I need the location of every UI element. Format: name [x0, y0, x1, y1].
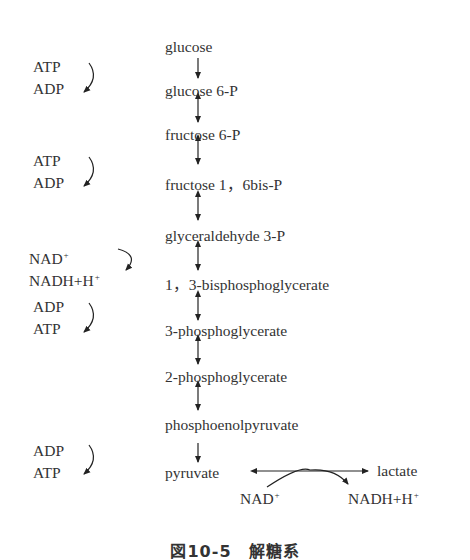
cofactor-in-3: NAD+ [29, 250, 69, 270]
curved-arrow-icon [84, 445, 93, 474]
cofactor-out-5: ATP [33, 464, 61, 482]
curved-arrow-icon [267, 469, 348, 487]
compound-13-bisphosphoglycerate: 1，3-bisphosphoglycerate [165, 276, 329, 294]
cofactor-in-4: ADP [33, 298, 64, 316]
cofactor-in-1: ATP [33, 58, 61, 76]
compound-lactate: lactate [377, 462, 417, 480]
cofactor-label: NAD [240, 490, 274, 507]
cofactor-label: NAD [29, 250, 63, 267]
superscript: + [414, 490, 419, 500]
cofactor-out-4: ATP [33, 320, 61, 338]
compound-pyruvate: pyruvate [165, 464, 219, 482]
curved-arrow-icon [118, 249, 131, 270]
cofactor-out-2: ADP [33, 174, 64, 192]
superscript: + [64, 250, 69, 260]
curved-arrow-icon [84, 157, 93, 186]
cofactor-out-1: ADP [33, 80, 64, 98]
compound-glucose: glucose [165, 38, 212, 56]
superscript: + [275, 490, 280, 500]
cofactor-nad-plus: NAD+ [240, 490, 280, 510]
curved-arrow-icon [84, 303, 93, 332]
cofactor-nadh: NADH+H+ [348, 490, 419, 510]
cofactor-out-3: NADH+H+ [29, 272, 100, 292]
compound-fructose-16bisp: fructose 1，6bis-P [165, 176, 282, 194]
compound-glyceraldehyde-3p: glyceraldehyde 3-P [165, 227, 285, 245]
curved-arrow-icon [84, 63, 93, 92]
cofactor-label: NADH+H [29, 272, 94, 289]
figure-caption: 図10-5 解糖系 [0, 538, 470, 560]
compound-glucose-6p: glucose 6-P [165, 82, 238, 100]
compound-fructose-6p: fructose 6-P [165, 126, 240, 144]
cofactor-label: NADH+H [348, 490, 413, 507]
compound-3-phosphoglycerate: 3-phosphoglycerate [165, 322, 287, 340]
cofactor-in-2: ATP [33, 152, 61, 170]
compound-phosphoenolpyruvate: phosphoenolpyruvate [165, 416, 298, 434]
cofactor-in-5: ADP [33, 442, 64, 460]
compound-2-phosphoglycerate: 2-phosphoglycerate [165, 368, 287, 386]
superscript: + [95, 272, 100, 282]
